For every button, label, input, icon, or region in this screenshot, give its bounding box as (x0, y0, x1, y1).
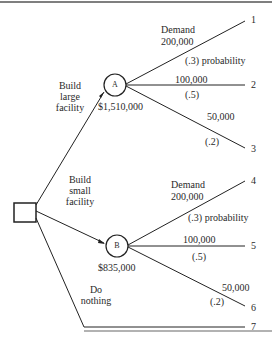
node-a-value: $1,510,000 (98, 101, 143, 112)
end-7: 7 (251, 321, 256, 332)
node-a-letter: A (104, 74, 126, 96)
a-demand-50000: 50,000 (207, 111, 235, 122)
end-6: 6 (251, 302, 256, 313)
b-demand-200000: 200,000 (171, 191, 204, 202)
decision-tree-diagram (0, 0, 272, 348)
decision-node-square (14, 203, 36, 222)
a-prob-02: (.2) (205, 136, 219, 147)
b-demand-label: Demand (171, 179, 205, 190)
b-prob-05: (.5) (192, 251, 206, 262)
outcome-line-6 (128, 247, 245, 306)
label-build-large: Build large facility (50, 80, 90, 113)
b-prob-02: (.2) (210, 296, 224, 307)
a-demand-100000: 100,000 (175, 74, 208, 85)
b-prob-03: (.3) probability (188, 212, 249, 223)
branch-build-small (36, 211, 104, 243)
a-prob-05: (.5) (185, 89, 199, 100)
b-demand-100000: 100,000 (183, 234, 216, 245)
arrow-icon (98, 239, 105, 244)
b-demand-50000: 50,000 (222, 282, 250, 293)
end-5: 5 (251, 240, 256, 251)
end-1: 1 (251, 14, 256, 25)
end-2: 2 (251, 79, 256, 90)
a-prob-03: (.3) probability (185, 55, 246, 66)
node-b-value: $835,000 (98, 262, 136, 273)
label-do-nothing: Do nothing (76, 284, 116, 306)
a-demand-200000: 200,000 (161, 36, 194, 47)
a-demand-label: Demand (161, 24, 195, 35)
end-3: 3 (251, 143, 256, 154)
end-4: 4 (251, 175, 256, 186)
label-build-small: Build small facility (60, 174, 100, 207)
node-b-letter: B (106, 235, 128, 257)
